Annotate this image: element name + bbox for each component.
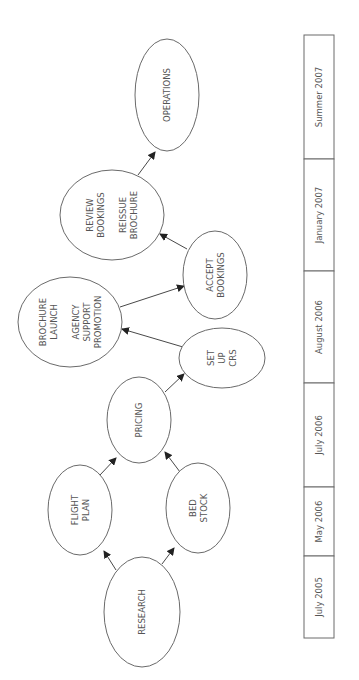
timeline-period: July 2005	[304, 556, 334, 638]
arrow-flight-to-pricing	[100, 458, 116, 475]
period-label: January 2007	[314, 187, 324, 245]
flow-diagram: OPERATIONSREVIEWBOOKINGSREISSUEBROCHUREB…	[0, 0, 359, 680]
arrow-icon	[160, 234, 187, 249]
arrow-review-to-operations	[138, 152, 155, 175]
period-label: Summer 2007	[314, 67, 324, 127]
node-brochure: BROCHURELAUNCHAGENCYSUPPORTPROMOTION	[18, 277, 122, 367]
node-label: FLIGHT	[70, 494, 80, 525]
node-label: REVIEW	[85, 198, 95, 232]
timeline-period: July 2006	[304, 383, 334, 487]
node-label: PRICING	[134, 403, 144, 438]
timeline-period: January 2007	[304, 159, 334, 271]
node-label: ACCEPT	[205, 258, 215, 292]
node-operations: OPERATIONS	[135, 39, 199, 151]
arrow-icon	[104, 551, 116, 570]
node-label: LAUNCH	[49, 304, 59, 340]
nodes-layer: OPERATIONSREVIEWBOOKINGSREISSUEBROCHUREB…	[18, 39, 265, 667]
node-label: SET	[206, 349, 216, 366]
node-label: SUPPORT	[82, 302, 92, 342]
node-bed: BEDSTOCK	[166, 463, 230, 553]
node-label: BROCHURE	[129, 191, 139, 239]
arrow-icon	[165, 452, 180, 472]
node-label: RESEARCH	[137, 589, 147, 635]
node-setup: SETUPCRS	[179, 328, 265, 388]
node-label: UP	[217, 352, 227, 363]
node-label: BOOKINGS	[216, 252, 226, 297]
node-label: BROCHURE	[38, 298, 48, 346]
arrow-icon	[122, 329, 183, 347]
arrow-pricing-to-setup	[165, 374, 184, 392]
node-pricing: PRICING	[107, 377, 171, 463]
node-label: CRS	[228, 349, 238, 366]
timeline-period: August 2006	[304, 271, 334, 383]
arrow-accept-to-review	[160, 234, 187, 249]
node-label: REISSUE	[118, 197, 128, 233]
arrow-icon	[100, 458, 116, 475]
timeline-period: May 2006	[304, 487, 334, 556]
arrow-icon	[120, 286, 184, 307]
arrow-icon	[165, 374, 184, 392]
node-review: REVIEWBOOKINGSREISSUEBROCHURE	[60, 170, 164, 260]
period-label: May 2006	[314, 501, 324, 543]
node-label: AGENCY	[71, 304, 81, 340]
period-label: August 2006	[314, 300, 324, 354]
arrow-research-to-flight	[104, 551, 116, 570]
node-label: OPERATIONS	[162, 68, 172, 122]
arrow-setup-to-brochure	[122, 329, 183, 347]
timeline-period: Summer 2007	[304, 35, 334, 159]
period-label: July 2005	[314, 577, 324, 618]
node-flight: FLIGHTPLAN	[48, 465, 112, 555]
node-label: PROMOTION	[93, 296, 103, 349]
arrow-icon	[162, 548, 174, 564]
arrow-brochure-to-accept	[120, 286, 184, 307]
node-research: RESEARCH	[104, 557, 180, 667]
node-label: STOCK	[199, 493, 209, 522]
node-label: PLAN	[81, 499, 91, 521]
node-label: BOOKINGS	[96, 192, 106, 237]
arrow-research-to-bed	[162, 548, 174, 564]
ellipse-shape	[60, 170, 164, 260]
timeline-bar: Summer 2007January 2007August 2006July 2…	[304, 35, 334, 638]
arrow-bed-to-pricing	[165, 452, 180, 472]
arrow-icon	[138, 152, 155, 175]
node-label: BED	[188, 499, 198, 517]
node-accept: ACCEPTBOOKINGS	[183, 231, 247, 319]
period-label: July 2006	[314, 415, 324, 456]
